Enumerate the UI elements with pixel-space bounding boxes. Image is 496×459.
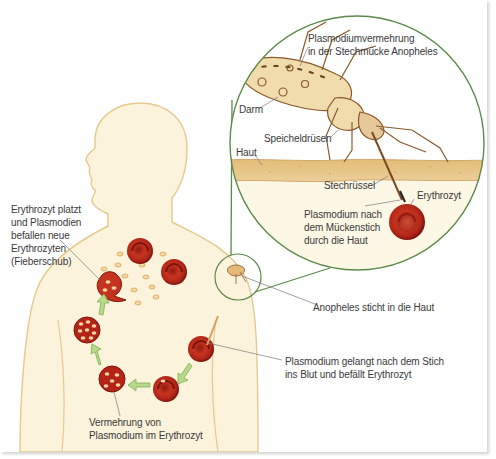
label-skin: Haut [236, 146, 257, 159]
human-body [20, 103, 258, 452]
erythrocyte-new-1 [127, 238, 153, 264]
erythrocyte-new-2 [161, 259, 187, 285]
label-gut: Darm [239, 103, 263, 116]
erythrocyte-full-of-plasmodia [74, 317, 100, 343]
label-anopheles-bites: Anopheles sticht in die Haut [313, 301, 434, 314]
label-mosquito-multiplication: Plasmodiumvermehrung in der Stechmücke A… [308, 32, 438, 58]
erythrocyte-early-infection [153, 376, 179, 402]
illustration-card: Plasmodiumvermehrung in der Stechmücke A… [0, 0, 487, 452]
label-proboscis: Stechrüssel [324, 179, 375, 192]
label-plasmodium-enters-blood: Plasmodium gelangt nach dem Stich ins Bl… [285, 355, 444, 381]
label-erythrocyte-bursts: Erythrozyt platzt und Plasmodien befalle… [11, 203, 81, 268]
erythrocyte-magnified [389, 204, 425, 240]
label-erythrocyte: Erythrozyt [417, 189, 461, 202]
erythrocyte-with-plasmodia [99, 366, 125, 392]
label-plasmodium-through-skin: Plasmodium nach dem Mückenstich durch di… [304, 208, 382, 247]
label-multiplication-in-erythrocyte: Vermehrung von Plasmodium im Erythrozyt [89, 416, 203, 442]
label-salivary-glands: Speicheldrüsen [264, 132, 332, 145]
